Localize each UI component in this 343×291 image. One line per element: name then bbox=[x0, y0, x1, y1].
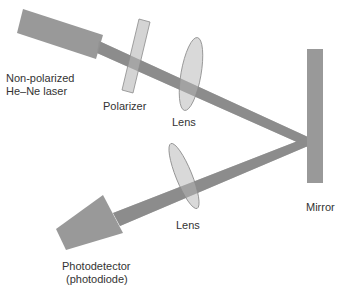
lens-top bbox=[175, 36, 208, 112]
reflected-beam-overlay bbox=[113, 137, 308, 226]
laser-body bbox=[17, 9, 103, 59]
photodetector bbox=[56, 195, 123, 250]
laser-label-line2: He–Ne laser bbox=[6, 85, 67, 97]
lens-top-label: Lens bbox=[172, 116, 196, 128]
detector-label-line1: Photodetector bbox=[62, 260, 131, 272]
lens-bottom-label: Lens bbox=[176, 219, 200, 231]
mirror-label: Mirror bbox=[306, 201, 335, 213]
laser-label-line1: Non-polarized bbox=[6, 72, 74, 84]
mirror bbox=[307, 49, 323, 183]
optical-diagram: Non-polarized He–Ne laser Polarizer Lens… bbox=[0, 0, 343, 291]
detector-label-line2: (photodiode) bbox=[66, 273, 128, 285]
polarizer-label: Polarizer bbox=[103, 100, 147, 112]
